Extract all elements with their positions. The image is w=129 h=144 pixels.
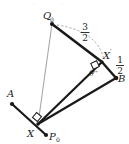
segment-q0-x <box>38 24 52 124</box>
right-angle-marker-xprime <box>91 61 100 70</box>
three-halves-denominator: 2 <box>82 33 88 43</box>
diagram-canvas: … … Q 0 X ′ <box>0 0 129 144</box>
label-p0-text: P <box>48 131 56 142</box>
one-half-numerator: 1 <box>117 55 123 65</box>
geometry-figure: … … Q 0 X ′ <box>0 0 129 144</box>
right-angle-marker-x <box>32 112 41 121</box>
label-a-text: A <box>6 88 14 99</box>
label-angle-theta: θ′′ <box>89 69 98 78</box>
vertex-dot-p0 <box>44 133 48 137</box>
label-xprime: X ′ <box>102 48 112 61</box>
label-length-one-half: 1 2 <box>116 55 124 76</box>
arc-radius-three-halves <box>57 25 104 60</box>
cropped-header-text: … … <box>30 0 66 6</box>
label-q0: Q 0 <box>43 10 54 23</box>
label-x-text: X <box>26 128 35 139</box>
svg-text:…: … <box>30 0 36 6</box>
svg-text:…: … <box>60 0 66 6</box>
segment-xprime-b <box>102 62 116 78</box>
label-a: A <box>6 88 14 99</box>
segment-q0-xprime <box>52 24 102 62</box>
vertex-dot-q0 <box>50 22 54 26</box>
one-half-denominator: 2 <box>117 66 123 76</box>
label-p0-subscript: 0 <box>56 136 60 143</box>
label-length-three-halves: 3 2 <box>81 22 90 43</box>
vertex-dot-x <box>36 122 40 126</box>
label-p0: P 0 <box>48 131 60 143</box>
label-xprime-prime: ′ <box>110 48 112 56</box>
label-x: X <box>26 128 35 139</box>
three-halves-numerator: 3 <box>82 22 88 32</box>
vertex-dot-a <box>10 102 14 106</box>
label-q0-subscript: 0 <box>50 16 54 23</box>
